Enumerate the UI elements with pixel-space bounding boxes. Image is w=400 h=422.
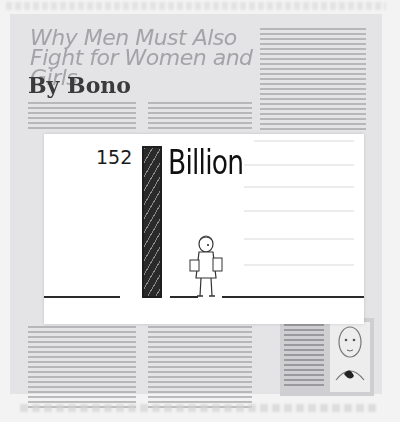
- background-text-strip-bottom: [20, 404, 380, 412]
- person-icon: [186, 234, 226, 306]
- text-column-middle: [148, 102, 252, 132]
- sidebar-box: [280, 318, 374, 396]
- hatched-bar: [142, 146, 162, 298]
- article-byline: By Bono: [28, 72, 131, 98]
- portrait-icon: [330, 322, 370, 392]
- baseline-left: [44, 296, 120, 298]
- text-column-right: [260, 28, 366, 132]
- ghost-text-line: [244, 264, 354, 266]
- sidebar-text: [284, 324, 324, 388]
- portrait-illustration: [330, 322, 370, 392]
- text-column-middle-lower: [148, 326, 252, 408]
- unit-label: Billion: [168, 142, 243, 182]
- text-column-left-lower: [28, 326, 136, 408]
- ghost-text-line: [244, 210, 354, 212]
- background-text-strip: [6, 2, 386, 10]
- chart-overlay-panel: 152 Billion: [44, 134, 364, 324]
- ghost-text-line: [244, 186, 354, 188]
- ghost-text-line: [244, 238, 354, 240]
- ghost-text-line: [254, 140, 354, 142]
- baseline-right: [222, 296, 364, 298]
- cartoon-figure: [186, 234, 226, 306]
- text-column-left: [28, 102, 136, 132]
- value-label: 152: [96, 146, 132, 168]
- ghost-text-line: [244, 164, 354, 166]
